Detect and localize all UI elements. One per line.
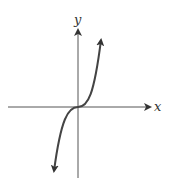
curve-upper-branch bbox=[78, 40, 101, 107]
curve-lower-branch bbox=[54, 107, 78, 171]
graph-figure: y x bbox=[0, 0, 170, 182]
y-axis-label: y bbox=[73, 12, 82, 27]
x-axis-label: x bbox=[154, 99, 162, 114]
